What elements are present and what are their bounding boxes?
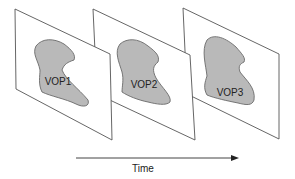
- vop-plane-3: VOP3: [183, 8, 279, 139]
- time-axis: Time: [76, 155, 239, 174]
- vop-diagram: VOP3 VOP2 VOP1 Time: [0, 0, 295, 179]
- vop2-label: VOP2: [131, 79, 158, 90]
- vop1-label: VOP1: [45, 76, 72, 87]
- time-label: Time: [132, 163, 154, 174]
- vop3-label: VOP3: [217, 87, 244, 98]
- time-arrow-head-icon: [231, 155, 239, 161]
